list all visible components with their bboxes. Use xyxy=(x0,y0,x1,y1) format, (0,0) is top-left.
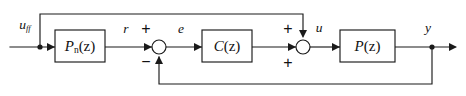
arrow-output-right xyxy=(449,43,457,51)
arrow-feedforward-down xyxy=(299,30,307,38)
plant-argument: (z) xyxy=(364,38,381,55)
feedforward-block-label: Pn(z) xyxy=(64,38,96,55)
signal-label-uff: uff xyxy=(19,17,32,33)
error-sum-plus-sign: + xyxy=(141,20,150,37)
control-sum-plus-sign-top: + xyxy=(283,20,292,37)
feedforward-argument: (z) xyxy=(79,38,96,55)
signal-label-e: e xyxy=(178,21,184,36)
arrow-into-pn xyxy=(47,43,55,51)
control-sum-plus-sign-bottom: + xyxy=(283,54,292,71)
signal-label-u: u xyxy=(316,20,323,35)
input-branch-node xyxy=(37,44,42,49)
uff-subscript: ff xyxy=(26,23,32,33)
controller-block-label: C(z) xyxy=(214,38,241,55)
signal-label-r: r xyxy=(123,21,129,36)
feedforward-base: P xyxy=(64,38,74,54)
arrow-into-control-sum xyxy=(288,43,296,51)
error-summing-junction[interactable] xyxy=(152,40,166,54)
plant-block-label: P(z) xyxy=(354,38,381,55)
control-loop-diagram: Pn(z) C(z) P(z) + − + + uff r e u y xyxy=(0,0,466,96)
error-sum-minus-sign: − xyxy=(141,53,150,70)
arrow-into-plant xyxy=(332,43,340,51)
plant-base: P xyxy=(354,38,364,54)
arrow-feedback-up xyxy=(155,56,163,64)
arrow-into-controller xyxy=(194,43,202,51)
arrow-into-error-sum xyxy=(144,43,152,51)
output-branch-node xyxy=(429,44,434,49)
controller-argument: (z) xyxy=(224,38,241,55)
signal-label-y: y xyxy=(423,20,431,35)
control-summing-junction[interactable] xyxy=(296,40,310,54)
block-diagram-figure: Pn(z) C(z) P(z) + − + + uff r e u y xyxy=(0,0,466,96)
